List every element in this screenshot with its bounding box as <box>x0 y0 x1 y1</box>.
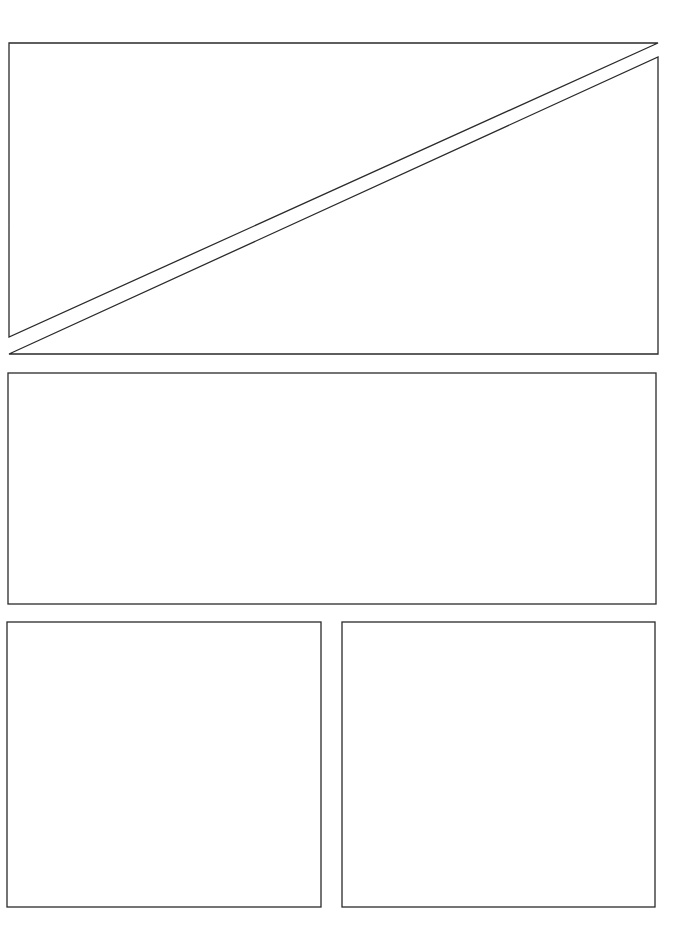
panel-bottom-left <box>7 622 321 907</box>
panel-bottom-right <box>342 622 655 907</box>
comic-page-layout <box>0 0 686 944</box>
panel-middle-wide <box>8 373 656 604</box>
